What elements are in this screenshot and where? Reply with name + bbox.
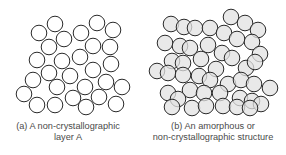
atom-circle	[49, 79, 65, 95]
panel-a-non-crystallographic-layer	[16, 15, 130, 115]
caption-a: (a) A non-crystallographic layer A	[8, 121, 128, 143]
atom-circle	[103, 56, 119, 72]
atom-circle	[72, 49, 88, 65]
atom-circle	[85, 38, 101, 54]
atom-circle	[229, 31, 245, 47]
atom-circle	[114, 79, 130, 95]
atom-circle	[77, 79, 93, 95]
atom-circle	[65, 90, 81, 106]
atom-circle	[262, 80, 278, 96]
caption-b-line2: non-crystallographic structure	[148, 132, 278, 143]
panel-b-amorphous-structure	[149, 9, 278, 116]
caption-a-line1: (a) A non-crystallographic	[8, 121, 128, 132]
atom-circle	[108, 96, 124, 112]
atom-circle	[202, 20, 218, 36]
atom-circle	[54, 53, 70, 69]
atom-circle	[73, 25, 89, 41]
atom-circle	[164, 99, 180, 115]
atom-circle	[198, 98, 214, 114]
atom-circle	[31, 25, 47, 41]
atom-circle	[41, 65, 57, 81]
atom-circle	[41, 39, 57, 55]
atom-circle	[91, 89, 107, 105]
caption-b: (b) An amorphous or non-crystallographic…	[148, 121, 278, 143]
atom-circle	[223, 9, 239, 25]
atom-circle	[98, 74, 114, 90]
atom-circle	[105, 22, 121, 38]
atom-circle	[175, 67, 191, 83]
atom-circle	[184, 100, 200, 116]
atom-circle	[200, 37, 216, 53]
atom-circle	[56, 31, 72, 47]
atom-circle	[29, 52, 45, 68]
atom-circle	[25, 72, 41, 88]
atom-circle	[89, 15, 105, 31]
atom-circle	[85, 62, 101, 78]
atom-circle	[224, 50, 240, 66]
atom-circle	[242, 100, 258, 116]
atom-circle	[187, 20, 203, 36]
atom-circle	[47, 97, 63, 113]
atom-circle	[47, 16, 63, 32]
atom-circle	[62, 68, 78, 84]
atom-circle	[193, 51, 209, 67]
atom-circle	[102, 39, 118, 55]
atom-circle	[29, 97, 45, 113]
atom-circle	[157, 35, 173, 51]
atom-circle	[247, 54, 263, 70]
atom-circle	[215, 98, 231, 114]
caption-b-line1: (b) An amorphous or	[148, 121, 278, 132]
caption-a-line2: layer A	[8, 132, 128, 143]
atom-circle	[246, 76, 262, 92]
atom-circle	[16, 86, 32, 102]
atom-circle	[78, 99, 94, 115]
atom-circle	[160, 65, 176, 81]
